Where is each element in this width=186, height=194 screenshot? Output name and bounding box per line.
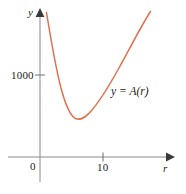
x-tick-label-10: 10 bbox=[97, 162, 108, 173]
function-graph-figure: y r 1000 0 10 y = A(r) bbox=[0, 0, 186, 194]
y-axis-arrowhead bbox=[36, 8, 45, 17]
x-tick-label-0: 0 bbox=[30, 161, 36, 172]
x-axis-label: r bbox=[163, 163, 167, 174]
plot-area bbox=[0, 0, 186, 194]
x-axis-arrowhead bbox=[166, 153, 175, 162]
function-curve bbox=[47, 12, 151, 120]
y-tick-label-1000: 1000 bbox=[11, 70, 34, 81]
y-axis-label: y bbox=[28, 7, 33, 18]
curve-equation-label: y = A(r) bbox=[111, 86, 149, 98]
